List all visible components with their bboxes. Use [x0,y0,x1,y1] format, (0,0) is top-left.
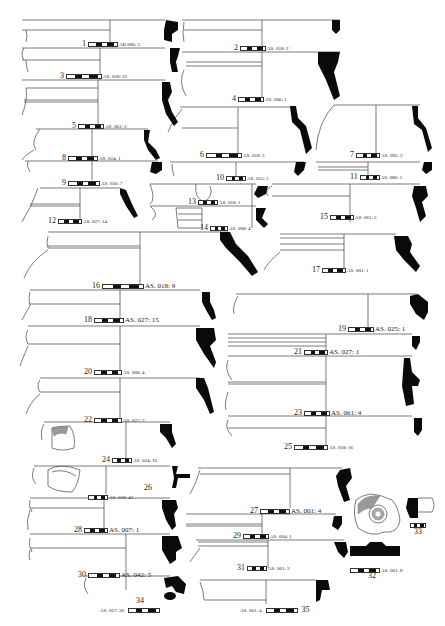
item-label-6: 6AS. 018: 5 [200,151,265,160]
item-label-32-num: 32 [368,572,378,580]
item-label-16: 16AS. 018: 9 [92,282,175,290]
item-label-14: 14AS. 008: 4 [200,224,251,233]
item-label-3: 3AS. 018: 22 [60,72,127,81]
item-label-26-num: 26 [144,484,154,492]
item-label-12: 12AS. 027: 14 [48,217,107,226]
item-label-31: 31AS. 061: 2 [237,564,290,573]
pottery-plate [0,0,445,626]
item-label-10: 10AS. 015: 1 [216,174,269,183]
item-label-34-code: AS. 027: 30 [100,606,161,615]
item-label-2: 2AS. 018: 2 [234,44,289,53]
item-label-34-num: 34 [136,597,146,605]
item-label-7: 7AS. 095: 2 [350,151,403,160]
item-label-1: 1AB.006: 3 [82,40,140,49]
item-label-21: 21AS. 027: 1 [294,348,359,356]
item-label-9: 9AS. 056: 7 [62,179,123,188]
item-label-15: 15AS. 061: 5 [320,213,377,222]
item-label-29: 29AS. 004: 1 [233,532,292,541]
item-label-20: 20AS. 006: 4 [84,368,145,377]
item-label-35: AS. 001: 435 [240,606,312,615]
item-label-18: 18AS. 027: 15 [84,316,159,324]
item-label-4: 4AS. 006: 1 [232,95,287,104]
item-label-33-num: 33 [414,528,424,536]
item-label-26-code: AS. 018: 43 [88,493,133,502]
item-label-11: 11AS. 080: 2 [350,173,402,182]
item-label-23: 23AS. 061: 4 [294,409,361,417]
item-label-19: 19AS. 025: 1 [338,325,405,333]
item-label-28: 28AS. 007: 1 [74,526,139,534]
item-label-24: 24AS. 024: 16 [102,456,157,465]
item-label-30: 30AS. 042: 5 [78,571,151,579]
item-label-17: 17AS. 001: 1 [312,266,369,275]
item-label-25: 25AS. 018: 16 [284,443,353,452]
item-label-27: 27AS. 001: 4 [250,507,321,515]
item-label-22: 22AS. 027: 7 [84,416,145,425]
item-label-13: 13AS. 018: 1 [188,198,241,207]
item-label-5: 5AS. 061: 3 [72,122,127,131]
item-label-8: 8AS. 024: 1 [62,154,121,163]
